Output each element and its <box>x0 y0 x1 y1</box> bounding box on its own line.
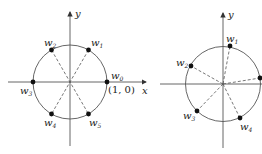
point-w5 <box>86 112 91 117</box>
y-axis-label: y <box>227 9 234 20</box>
point-w4 <box>49 112 54 117</box>
label-w4: w4 <box>44 117 57 129</box>
label-w5: w5 <box>89 117 102 129</box>
label-w2: w2 <box>176 57 189 69</box>
label-w1: w1 <box>226 33 238 45</box>
point-w2 <box>189 64 194 69</box>
point-w3 <box>31 80 36 85</box>
label-w2: w2 <box>44 37 57 49</box>
point-w3 <box>195 109 200 114</box>
label-w3: w3 <box>20 85 33 97</box>
label-1-0: (1, 0) <box>108 84 135 95</box>
x-axis-label: x <box>142 85 148 96</box>
diagram-canvas: y x w0 (1, 0) w1 w2 w3 w4 w5 y <box>0 0 262 154</box>
label-w4: w4 <box>240 121 253 133</box>
point-w1 <box>228 44 233 49</box>
right-diagram: y w1 w2 w3 w4 <box>160 9 262 148</box>
point-w4 <box>238 116 243 121</box>
point-w1 <box>86 48 91 53</box>
spokes <box>191 46 260 118</box>
y-axis-label: y <box>74 8 81 19</box>
label-w0: w0 <box>111 70 124 82</box>
label-w3: w3 <box>183 110 196 122</box>
left-diagram: y x w0 (1, 0) w1 w2 w3 w4 w5 <box>8 8 148 146</box>
point-w0 <box>258 76 262 81</box>
label-w1: w1 <box>91 37 103 49</box>
